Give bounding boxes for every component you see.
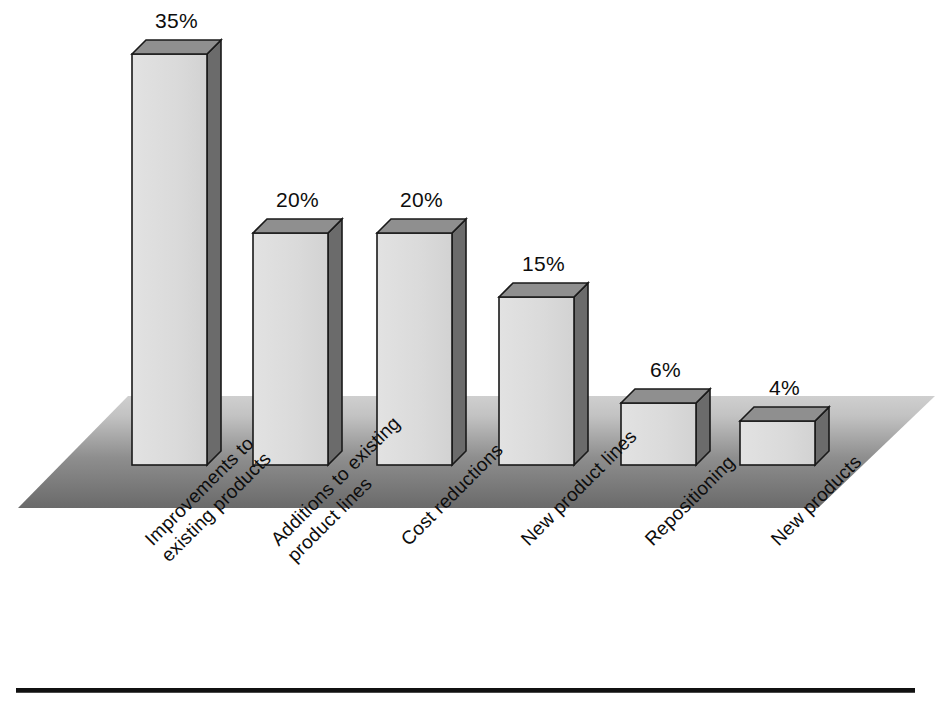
value-label-3: 20% — [400, 188, 443, 212]
bar-top-face — [499, 283, 588, 297]
bar-side-face — [574, 283, 588, 465]
value-label-6: 4% — [769, 376, 800, 400]
bar-side-face — [207, 40, 221, 465]
bar-side-face — [452, 219, 466, 465]
bar-1 — [132, 40, 221, 465]
value-label-5: 6% — [650, 358, 681, 382]
value-label-2: 20% — [276, 188, 319, 212]
bar-6 — [740, 407, 829, 465]
bottom-rule — [16, 688, 915, 693]
value-label-4: 15% — [522, 252, 565, 276]
bar-front-face — [253, 233, 328, 465]
bar-front-face — [499, 297, 574, 465]
bar-chart-plot — [0, 0, 935, 706]
chart-page: 35%20%20%15%6%4% Improvements toexisting… — [0, 0, 935, 706]
bar-2 — [253, 219, 342, 465]
bar-side-face — [328, 219, 342, 465]
bar-top-face — [377, 219, 466, 233]
bar-5 — [621, 389, 710, 465]
bar-top-face — [132, 40, 221, 54]
bar-front-face — [740, 421, 815, 465]
bar-top-face — [253, 219, 342, 233]
bar-top-face — [621, 389, 710, 403]
bar-4 — [499, 283, 588, 465]
chart-svg — [0, 0, 935, 706]
value-label-1: 35% — [155, 9, 198, 33]
bar-front-face — [132, 54, 207, 465]
bar-top-face — [740, 407, 829, 421]
